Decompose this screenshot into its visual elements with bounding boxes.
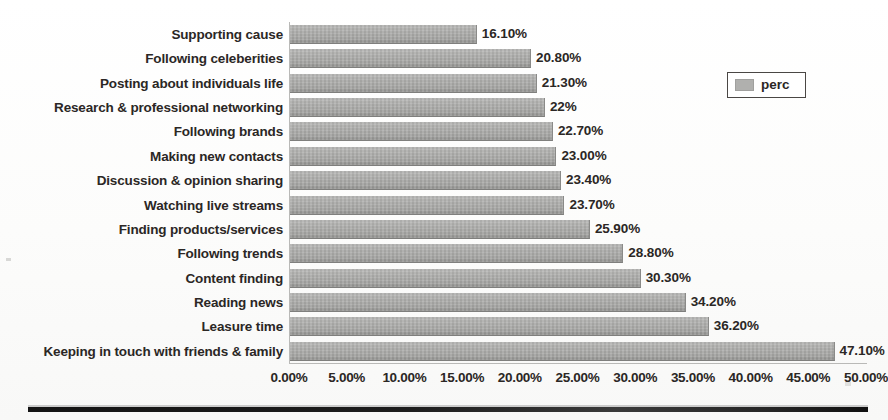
bar-value-label: 34.20% (691, 292, 736, 311)
bar-row: 23.40% (290, 168, 868, 192)
x-tick-label: 5.00% (328, 369, 365, 387)
x-tick-label: 45.00% (786, 369, 830, 387)
legend-swatch-icon (735, 79, 754, 91)
bar-chart: Supporting causeFollowing celeberitiesPo… (0, 0, 888, 420)
bar[interactable] (290, 147, 556, 166)
bar-row: 34.20% (290, 290, 868, 314)
bar-value-label: 23.40% (566, 170, 611, 189)
category-label: Reading news (1, 293, 283, 312)
x-tick-label: 40.00% (729, 369, 773, 387)
scan-speck-right (845, 382, 851, 386)
category-label: Posting about individuals life (1, 74, 283, 93)
bar-value-label: 22% (550, 97, 577, 116)
bar-row: 30.30% (290, 266, 868, 290)
bar[interactable] (290, 98, 545, 117)
x-axis-line (289, 363, 867, 364)
bar[interactable] (290, 122, 553, 141)
x-tick-label: 15.00% (440, 369, 484, 387)
bar-row: 23.00% (290, 144, 868, 168)
bar-value-label: 16.10% (482, 24, 527, 43)
bar-row: 25.90% (290, 217, 868, 241)
bar[interactable] (290, 342, 835, 361)
chart-legend: perc (727, 72, 806, 98)
bar[interactable] (290, 244, 623, 263)
category-label: Following brands (1, 122, 283, 141)
bar-row: 23.70% (290, 193, 868, 217)
category-label: Research & professional networking (1, 98, 283, 117)
bar-row: 16.10% (290, 22, 868, 46)
bar[interactable] (290, 171, 561, 190)
bar-value-label: 23.00% (561, 146, 606, 165)
value-axis-labels: 0.00%5.00%10.00%15.00%20.00%25.00%30.00%… (0, 369, 888, 391)
bar-row: 28.80% (290, 241, 868, 265)
x-tick-label: 30.00% (613, 369, 657, 387)
category-axis-labels: Supporting causeFollowing celeberitiesPo… (0, 22, 283, 363)
bar[interactable] (290, 269, 641, 288)
category-label: Discussion & opinion sharing (1, 171, 283, 190)
bar-value-label: 25.90% (595, 219, 640, 238)
scan-edge-line (28, 407, 868, 412)
category-label: Content finding (1, 269, 283, 288)
bar-row: 20.80% (290, 46, 868, 70)
bar-row: 22.70% (290, 119, 868, 143)
bar[interactable] (290, 293, 686, 312)
bar-value-label: 21.30% (542, 73, 587, 92)
category-label: Following celeberities (1, 49, 283, 68)
category-label: Finding products/services (1, 220, 283, 239)
bar-value-label: 30.30% (646, 268, 691, 287)
bar-value-label: 36.20% (714, 316, 759, 335)
bar[interactable] (290, 317, 709, 336)
bar-row: 36.20% (290, 314, 868, 338)
bar-value-label: 23.70% (569, 195, 614, 214)
x-tick-label: 25.00% (556, 369, 600, 387)
x-tick-label: 10.00% (382, 369, 426, 387)
category-label: Following trends (1, 244, 283, 263)
x-tick-label: 20.00% (498, 369, 542, 387)
bar[interactable] (290, 196, 564, 215)
x-tick-label: 0.00% (271, 369, 308, 387)
bar[interactable] (290, 25, 477, 44)
scan-speck-left (6, 258, 11, 261)
bar[interactable] (290, 49, 531, 68)
bar-row: 47.10% (290, 339, 868, 363)
x-tick-label: 35.00% (671, 369, 715, 387)
category-label: Making new contacts (1, 147, 283, 166)
category-label: Keeping in touch with friends & family (1, 342, 283, 361)
bar-value-label: 22.70% (558, 121, 603, 140)
category-label: Watching live streams (1, 196, 283, 215)
bar[interactable] (290, 220, 590, 239)
legend-label: perc (761, 77, 790, 93)
bar-value-label: 28.80% (628, 243, 673, 262)
bar-row: 22% (290, 95, 868, 119)
bar-value-label: 47.10% (840, 341, 885, 360)
category-label: Leasure time (1, 317, 283, 336)
bar-value-label: 20.80% (536, 48, 581, 67)
category-label: Supporting cause (1, 25, 283, 44)
bar[interactable] (290, 74, 537, 93)
